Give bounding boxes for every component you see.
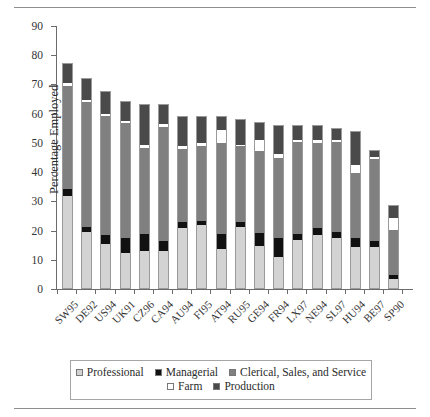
bar-SP90[interactable]: [388, 205, 399, 289]
x-tick: [402, 289, 403, 294]
bar-segment-clerical: [313, 143, 322, 228]
bar-DE92[interactable]: [81, 78, 92, 289]
legend-label: Professional: [87, 365, 144, 379]
bar-segment-clerical: [159, 127, 168, 241]
bar-segment-clerical: [389, 230, 398, 275]
bar-segment-managerial: [121, 238, 130, 253]
bar-RU95[interactable]: [235, 119, 246, 289]
bar-segment-production: [178, 117, 187, 146]
bar-segment-production: [313, 126, 322, 141]
bar-segment-clerical: [332, 142, 341, 233]
y-tick-label: 60: [32, 108, 44, 120]
chart-legend: ProfessionalManagerialClerical, Sales, a…: [70, 360, 372, 400]
bar-segment-production: [217, 117, 226, 130]
professional-swatch-icon: [76, 369, 83, 376]
bar-LX97[interactable]: [292, 125, 303, 289]
bar-segment-production: [140, 105, 149, 144]
bar-segment-clerical: [101, 116, 110, 236]
x-tick: [115, 289, 116, 294]
bar-segment-professional: [293, 240, 302, 288]
x-tick: [210, 289, 211, 294]
bar-US94[interactable]: [100, 91, 111, 289]
y-tick-90: 90: [51, 26, 56, 27]
bar-segment-farm: [255, 140, 264, 150]
bar-segment-clerical: [121, 123, 130, 238]
bar-segment-professional: [236, 227, 245, 288]
bar-segment-clerical: [63, 86, 72, 188]
x-tick: [326, 289, 327, 294]
x-tick: [134, 289, 135, 294]
x-axis-line: [56, 289, 413, 290]
x-tick: [230, 289, 231, 294]
bar-segment-production: [63, 64, 72, 83]
y-tick-label: 90: [32, 20, 44, 32]
production-swatch-icon: [213, 383, 220, 390]
x-tick: [153, 289, 154, 294]
x-tick: [76, 289, 77, 294]
bar-segment-farm: [351, 165, 360, 172]
y-tick-label: 50: [32, 137, 44, 149]
x-tick: [287, 289, 288, 294]
y-tick-label: 0: [37, 283, 43, 295]
bar-segment-professional: [351, 247, 360, 288]
bar-segment-managerial: [255, 233, 264, 246]
bar-SW95[interactable]: [62, 63, 73, 289]
bar-segment-clerical: [82, 102, 91, 226]
legend-item-clerical[interactable]: Clerical, Sales, and Service: [229, 365, 366, 379]
figure-top-rule: [14, 7, 416, 8]
legend-label: Managerial: [166, 365, 218, 379]
bar-segment-managerial: [217, 234, 226, 249]
legend-item-professional[interactable]: Professional: [76, 365, 144, 379]
legend-item-farm[interactable]: Farm: [167, 379, 202, 393]
bar-segment-clerical: [236, 146, 245, 222]
x-tick: [364, 289, 365, 294]
bar-segment-production: [255, 123, 264, 141]
y-tick-20: 20: [51, 231, 56, 232]
x-tick: [249, 289, 250, 294]
bar-segment-production: [332, 129, 341, 141]
legend-item-managerial[interactable]: Managerial: [155, 365, 218, 379]
legend-label: Production: [224, 379, 274, 393]
bar-UK91[interactable]: [120, 101, 131, 289]
bar-AT94[interactable]: [216, 116, 227, 289]
bar-HU94[interactable]: [350, 131, 361, 289]
bar-segment-professional: [197, 225, 206, 288]
bar-GE94[interactable]: [254, 122, 265, 289]
bar-segment-production: [82, 79, 91, 99]
y-tick-label: 20: [32, 225, 44, 237]
x-tick: [57, 289, 58, 294]
bar-segment-managerial: [274, 238, 283, 257]
bar-BE97[interactable]: [369, 150, 380, 289]
bar-segment-clerical: [197, 146, 206, 221]
bar-segment-professional: [63, 196, 72, 288]
bar-segment-production: [351, 132, 360, 166]
bar-segment-production: [121, 102, 130, 121]
bar-CZ96[interactable]: [139, 104, 150, 289]
bar-segment-professional: [121, 253, 130, 288]
bar-segment-production: [159, 105, 168, 124]
bar-NE94[interactable]: [312, 125, 323, 289]
bar-segment-professional: [370, 247, 379, 288]
y-tick-label: 40: [32, 166, 44, 178]
bar-FR94[interactable]: [273, 125, 284, 289]
bar-segment-managerial: [313, 228, 322, 235]
bar-segment-production: [197, 117, 206, 143]
bar-segment-clerical: [293, 142, 302, 234]
bar-segment-professional: [255, 246, 264, 288]
y-tick-label: 70: [32, 78, 44, 90]
bar-segment-production: [101, 92, 110, 114]
bar-segment-professional: [274, 257, 283, 288]
bar-CA94[interactable]: [158, 104, 169, 289]
bar-FI95[interactable]: [196, 116, 207, 289]
bar-segment-clerical: [140, 148, 149, 234]
bar-segment-professional: [332, 238, 341, 288]
bar-segment-managerial: [140, 234, 149, 252]
managerial-swatch-icon: [155, 369, 162, 376]
bar-segment-professional: [178, 228, 187, 288]
bar-segment-managerial: [101, 235, 110, 244]
legend-item-production[interactable]: Production: [213, 379, 274, 393]
bar-SL97[interactable]: [331, 128, 342, 289]
bar-AU94[interactable]: [177, 116, 188, 289]
x-tick: [95, 289, 96, 294]
bar-segment-professional: [101, 244, 110, 288]
